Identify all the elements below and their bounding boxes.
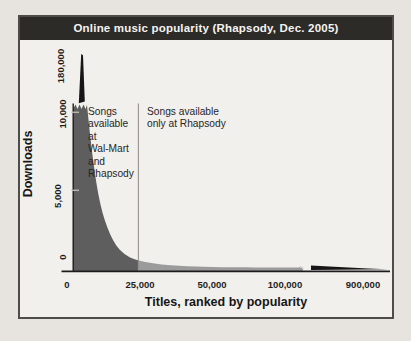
far-tail-wedge-shape bbox=[311, 265, 388, 270]
x-tick-label-25000: 25,000 bbox=[125, 279, 154, 290]
annotation-head-line: at bbox=[88, 131, 134, 143]
annotation-head-line: Rhapsody bbox=[88, 168, 134, 180]
annotation-head-line: available bbox=[88, 118, 134, 130]
y-axis-title: Downloads bbox=[21, 131, 35, 198]
annotation-head-line: Songs bbox=[88, 106, 134, 118]
annotation-head-region: Songs available at Wal-Mart and Rhapsody bbox=[88, 106, 134, 180]
y-tick-label-5000: 5,000 bbox=[52, 184, 63, 208]
x-tick-label-100000: 100,000 bbox=[268, 279, 302, 290]
x-axis-title: Titles, ranked by popularity bbox=[145, 295, 307, 309]
annotation-tail-region: Songs available only at Rhapsody bbox=[147, 106, 226, 131]
x-tick-label-50000: 50,000 bbox=[197, 279, 226, 290]
x-tick-label-0: 0 bbox=[64, 279, 69, 290]
y-tick-label-0: 0 bbox=[57, 254, 68, 259]
x-tick-label-900000: 900,000 bbox=[346, 279, 380, 290]
peak-spike-shape bbox=[79, 54, 85, 103]
tail-area-shape bbox=[138, 260, 304, 271]
annotation-tail-line: only at Rhapsody bbox=[147, 118, 226, 130]
annotation-head-line: and bbox=[88, 156, 134, 168]
long-tail-chart-figure: Online music popularity (Rhapsody, Dec. … bbox=[0, 0, 411, 341]
y-tick-label-180000: 180,000 bbox=[55, 49, 66, 83]
annotation-tail-line: Songs available bbox=[147, 106, 226, 118]
y-tick-label-10000: 10,000 bbox=[57, 99, 68, 128]
annotation-head-line: Wal-Mart bbox=[88, 143, 134, 155]
